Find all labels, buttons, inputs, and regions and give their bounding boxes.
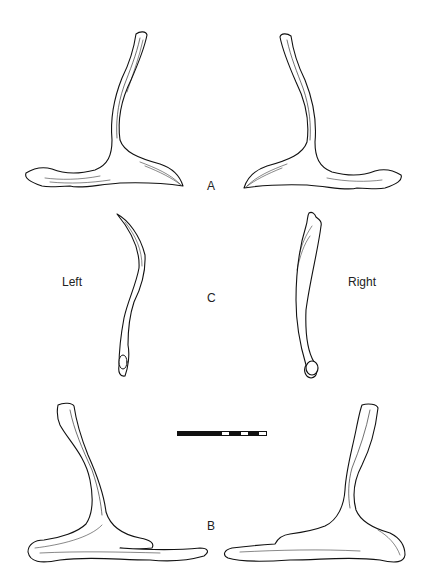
view-label-b: B bbox=[207, 520, 215, 532]
scale-bar bbox=[177, 431, 267, 436]
bone-c-left bbox=[117, 214, 145, 376]
bone-a-right bbox=[244, 34, 401, 189]
scale-bar-segment bbox=[241, 432, 248, 435]
view-label-a: A bbox=[207, 180, 215, 192]
scale-bar-segment bbox=[229, 432, 241, 435]
side-label-right: Right bbox=[348, 276, 376, 288]
view-label-c: C bbox=[207, 292, 216, 304]
bone-a-left bbox=[26, 32, 183, 187]
bone-c-right bbox=[296, 212, 321, 378]
bone-b-left bbox=[28, 403, 207, 562]
scale-bar-segment bbox=[178, 432, 222, 435]
side-label-left: Left bbox=[62, 276, 82, 288]
scale-bar-segment bbox=[248, 432, 259, 435]
bone-b-right bbox=[225, 404, 405, 562]
scale-bar-segment bbox=[222, 432, 229, 435]
scale-bar-segment bbox=[259, 432, 266, 435]
